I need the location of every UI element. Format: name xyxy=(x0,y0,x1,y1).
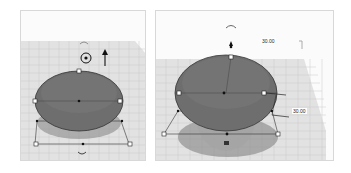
handle-left[interactable] xyxy=(177,91,181,95)
center-point xyxy=(223,92,226,95)
handle-bottom-center[interactable] xyxy=(226,133,229,136)
height-arrow-icon[interactable] xyxy=(229,41,233,48)
handle-right[interactable] xyxy=(118,99,122,103)
handle-bottom[interactable] xyxy=(224,141,229,145)
handle-bottom-center[interactable] xyxy=(82,143,85,146)
right-scene xyxy=(156,11,334,161)
handle-top[interactable] xyxy=(229,55,233,59)
viewport-left[interactable] xyxy=(20,10,146,161)
handle-corner-bl[interactable] xyxy=(162,132,166,136)
viewport-right[interactable]: 30.00 30.00 xyxy=(155,10,334,161)
handle-left[interactable] xyxy=(33,99,37,103)
pointer-cursor-icon xyxy=(299,41,302,49)
handle-corner-br[interactable] xyxy=(128,142,132,146)
handle-top[interactable] xyxy=(77,69,81,73)
dimension-label-top[interactable]: 30.00 xyxy=(261,38,276,44)
handle-corner-br[interactable] xyxy=(276,132,280,136)
dimension-label-side[interactable]: 30.00 xyxy=(292,108,307,114)
center-point xyxy=(78,100,81,103)
rotate-top-icon[interactable] xyxy=(226,26,236,29)
handle-corner-bl[interactable] xyxy=(34,142,38,146)
left-scene xyxy=(21,11,146,161)
handle-right[interactable] xyxy=(262,91,266,95)
